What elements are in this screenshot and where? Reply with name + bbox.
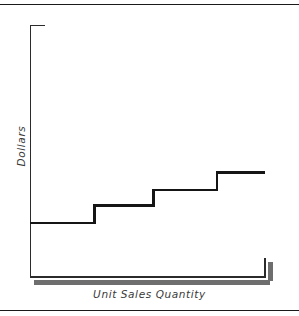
y-axis-line <box>30 25 31 278</box>
step-riser-1 <box>93 204 96 224</box>
x-axis-shadow <box>34 280 270 285</box>
step-riser-2 <box>152 189 155 207</box>
step-tread-1 <box>30 222 93 225</box>
plot-area: Dollars Unit Sales Quantity <box>0 0 299 316</box>
x-axis-endcap-shadow <box>268 262 273 281</box>
step-tread-4 <box>216 171 265 174</box>
step-riser-3 <box>216 171 219 191</box>
figure-container: Dollars Unit Sales Quantity <box>0 0 299 316</box>
y-axis-top-cap <box>30 25 45 26</box>
step-tread-3 <box>152 189 215 192</box>
x-axis-line <box>30 276 266 278</box>
x-axis-label: Unit Sales Quantity <box>0 288 299 300</box>
y-axis-label: Dollars <box>15 116 27 176</box>
step-tread-2 <box>93 204 152 207</box>
x-axis-end-cap <box>264 258 266 277</box>
